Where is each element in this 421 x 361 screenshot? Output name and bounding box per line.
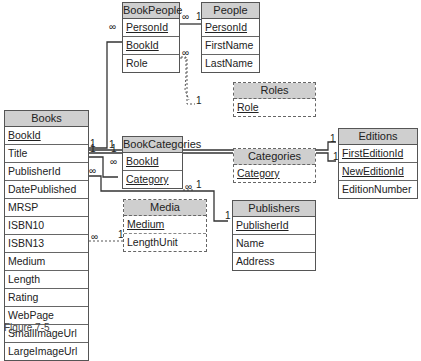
card-bookcat-categories-many: ∞: [185, 182, 192, 192]
field-medium: Medium: [5, 253, 88, 271]
field-lengthunit: LengthUnit: [124, 234, 206, 251]
table-media-title: Media: [124, 200, 206, 216]
table-roles-title: Roles: [234, 83, 315, 99]
table-roles: Roles Role: [233, 82, 316, 117]
table-books-title: Books: [5, 111, 88, 127]
field-personid: PersonId: [202, 19, 259, 37]
card-roles-one: 1: [196, 96, 202, 106]
card-editions-first-one: 1: [330, 134, 336, 144]
field-datepublished: DatePublished: [5, 181, 88, 199]
card-bookpeople-people-many: ∞: [182, 12, 189, 22]
card-bookpeople-roles-many: ∞: [182, 48, 189, 58]
table-publishers: Publishers PublisherId Name Address: [232, 200, 316, 271]
table-bookcategories-title: BookCategories: [123, 137, 182, 153]
table-editions-title: Editions: [339, 129, 417, 145]
field-isbn10: ISBN10: [5, 217, 88, 235]
field-category: Category: [234, 165, 315, 182]
field-lastname: LastName: [202, 55, 259, 72]
table-bookcategories: BookCategories BookId Category: [122, 136, 183, 189]
card-books-publisher-many: ∞: [89, 166, 96, 176]
card-categories-one: 1: [196, 180, 202, 190]
field-role: Role: [123, 55, 179, 72]
field-publisherid: PublisherId: [233, 217, 315, 235]
table-categories-title: Categories: [234, 149, 315, 165]
field-largeimageurl: LargeImageUrl: [5, 343, 88, 360]
card-bookpeople-many: ∞: [109, 22, 116, 32]
figure-caption: Figure 7-5: [4, 322, 50, 333]
table-publishers-title: Publishers: [233, 201, 315, 217]
table-categories: Categories Category: [233, 148, 316, 183]
field-length: Length: [5, 271, 88, 289]
field-title: Title: [5, 145, 88, 163]
card-bookcat-many: ∞: [110, 157, 117, 167]
card-bookcat-one: 1: [111, 144, 117, 154]
table-editions: Editions FirstEditionId NewEditionId Edi…: [338, 128, 418, 199]
table-media: Media Medium LengthUnit: [123, 199, 207, 252]
field-name: Name: [233, 235, 315, 253]
field-neweditionid: NewEditionId: [339, 163, 417, 181]
field-firsteditionid: FirstEditionId: [339, 145, 417, 163]
field-category: Category: [123, 171, 182, 188]
field-bookid: BookId: [123, 37, 179, 55]
field-publisherid: PublisherId: [5, 163, 88, 181]
field-personid: PersonId: [123, 19, 179, 37]
field-isbn13: ISBN13: [5, 235, 88, 253]
field-mrsp: MRSP: [5, 199, 88, 217]
field-role: Role: [234, 99, 315, 116]
field-address: Address: [233, 253, 315, 270]
card-books-cat-one: 1: [90, 144, 96, 154]
field-bookid: BookId: [5, 127, 88, 145]
table-people: People PersonId FirstName LastName: [201, 2, 260, 73]
table-people-title: People: [202, 3, 259, 19]
field-medium: Medium: [124, 216, 206, 234]
table-bookpeople-title: BookPeople: [123, 3, 179, 19]
field-firstname: FirstName: [202, 37, 259, 55]
card-books-media-many: ∞: [91, 232, 98, 242]
field-bookid: BookId: [123, 153, 182, 171]
field-rating: Rating: [5, 289, 88, 307]
field-editionnumber: EditionNumber: [339, 181, 417, 198]
table-bookpeople: BookPeople PersonId BookId Role: [122, 2, 180, 73]
card-publishers-one: 1: [225, 211, 231, 221]
